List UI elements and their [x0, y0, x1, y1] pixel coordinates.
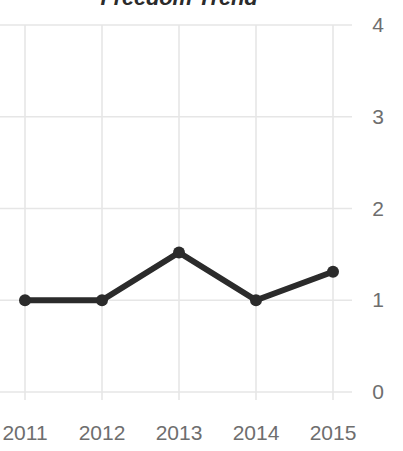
data-point-marker [173, 247, 185, 259]
horizontal-gridlines [0, 25, 352, 392]
data-point-marker [19, 294, 31, 306]
x-axis-tick-label: 2011 [0, 421, 60, 445]
x-axis-tick-label: 2012 [67, 421, 137, 445]
vertical-gridlines [25, 25, 333, 400]
y-axis-tick-label: 4 [362, 14, 394, 35]
y-axis-tick-label: 2 [362, 198, 394, 219]
plot-svg [0, 0, 358, 400]
line-chart: Freedom Trend 43210 20112012201320142015 [0, 0, 403, 451]
y-axis-tick-label: 1 [362, 289, 394, 310]
x-axis-tick-label: 2014 [221, 421, 291, 445]
data-point-marker [96, 294, 108, 306]
x-axis-tick-label: 2015 [298, 421, 368, 445]
x-axis: 20112012201320142015 [0, 421, 358, 451]
x-axis-tick-label: 2013 [144, 421, 214, 445]
y-axis-tick-label: 0 [362, 381, 394, 402]
plot-area [0, 0, 358, 400]
y-axis-tick-label: 3 [362, 106, 394, 127]
data-point-marker [327, 266, 339, 278]
data-point-marker [250, 294, 262, 306]
y-axis: 43210 [362, 0, 403, 400]
